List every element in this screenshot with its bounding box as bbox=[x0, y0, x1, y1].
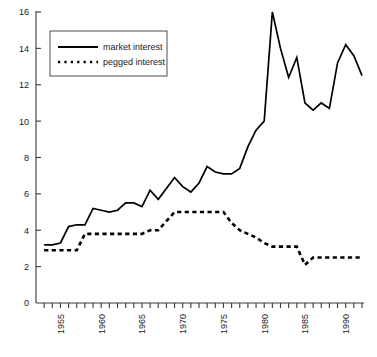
x-tick-label: 1985 bbox=[300, 314, 310, 334]
y-tick-label: 10 bbox=[19, 117, 29, 127]
x-tick-label: 1980 bbox=[260, 314, 270, 334]
chart-legend: market interestpegged interest bbox=[50, 31, 167, 76]
x-tick-label: 1955 bbox=[56, 314, 66, 334]
legend-label-pegged-interest: pegged interest bbox=[103, 57, 166, 67]
y-tick-label: 0 bbox=[24, 298, 29, 308]
y-tick-label: 6 bbox=[24, 189, 29, 199]
x-tick-label: 1960 bbox=[97, 314, 107, 334]
x-tick-label: 1965 bbox=[137, 314, 147, 334]
legend-label-market-interest: market interest bbox=[103, 42, 163, 52]
y-tick-label: 14 bbox=[19, 44, 29, 54]
chart-plot-area: 0246810121416 19551960196519701975198019… bbox=[0, 0, 377, 357]
x-tick-label: 1975 bbox=[219, 314, 229, 334]
y-tick-label: 16 bbox=[19, 7, 29, 17]
x-tick-label: 1990 bbox=[341, 314, 351, 334]
interest-rate-line-chart: 0246810121416 19551960196519701975198019… bbox=[0, 0, 377, 357]
y-tick-label: 4 bbox=[24, 226, 29, 236]
x-tick-label: 1970 bbox=[178, 314, 188, 334]
y-tick-label: 8 bbox=[24, 153, 29, 163]
y-tick-label: 2 bbox=[24, 262, 29, 272]
y-tick-label: 12 bbox=[19, 80, 29, 90]
legend-box bbox=[50, 31, 167, 76]
